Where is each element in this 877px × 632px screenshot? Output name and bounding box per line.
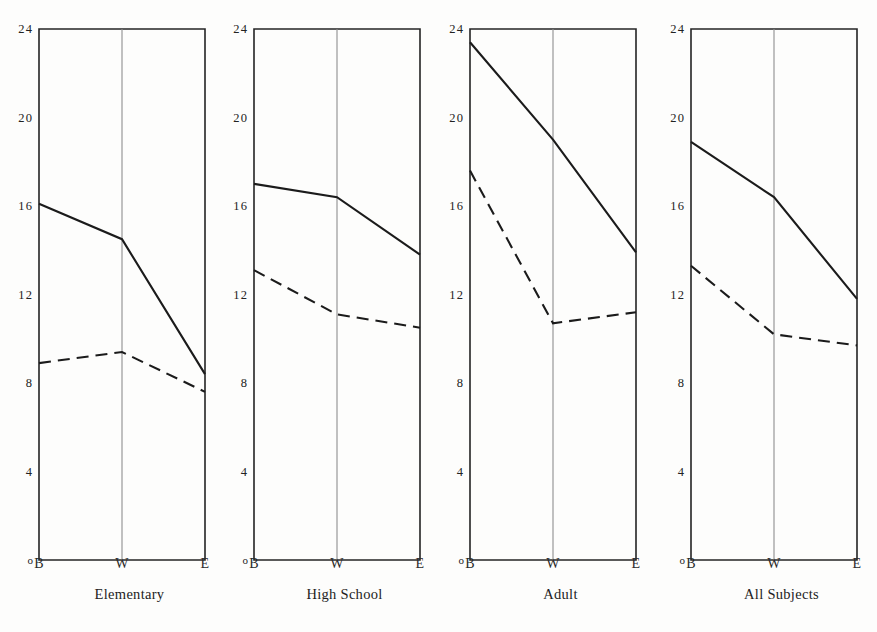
x-tick-label: W (115, 556, 129, 572)
x-axis-ticks: BWE (237, 556, 452, 578)
y-tick-label: 8 (241, 376, 248, 391)
panel-plot: o4812162024 (22, 0, 237, 600)
panel-plot: o4812162024 (453, 0, 668, 600)
y-tick-label: 4 (457, 464, 464, 479)
panel-plot: o4812162024 (674, 0, 877, 600)
y-tick-label: 24 (449, 22, 464, 37)
y-tick-label: 8 (457, 376, 464, 391)
x-axis-ticks: BWE (453, 556, 668, 578)
y-axis-ticks: o4812162024 (22, 0, 237, 600)
x-tick-label: E (853, 556, 862, 572)
y-tick-label: 24 (18, 22, 33, 37)
panel-plot: o4812162024 (237, 0, 452, 600)
y-tick-label: 4 (678, 464, 685, 479)
y-axis-ticks: o4812162024 (453, 0, 668, 600)
y-tick-label: 16 (18, 199, 33, 214)
x-tick-label: E (632, 556, 641, 572)
panel-caption: High School (237, 586, 452, 603)
chart-panel-all-subjects: o4812162024BWEAll Subjects (674, 0, 877, 632)
y-tick-label: 16 (670, 199, 685, 214)
panel-caption: Elementary (22, 586, 237, 603)
y-tick-label: 8 (678, 376, 685, 391)
x-tick-label: W (767, 556, 781, 572)
x-tick-label: W (330, 556, 344, 572)
y-tick-label: 8 (26, 376, 33, 391)
chart-panel-group: o4812162024BWEElementaryo4812162024BWEHi… (0, 0, 877, 632)
y-tick-label: 24 (233, 22, 248, 37)
chart-panel-high-school: o4812162024BWEHigh School (237, 0, 452, 632)
x-tick-label: B (249, 556, 259, 572)
y-axis-ticks: o4812162024 (674, 0, 877, 600)
x-axis-ticks: BWE (22, 556, 237, 578)
x-tick-label: W (546, 556, 560, 572)
y-tick-label: 4 (241, 464, 248, 479)
x-tick-label: B (34, 556, 44, 572)
x-tick-label: E (201, 556, 210, 572)
y-tick-label: 4 (26, 464, 33, 479)
x-tick-label: B (686, 556, 696, 572)
y-tick-label: 24 (670, 22, 685, 37)
y-tick-label: 12 (18, 287, 33, 302)
y-tick-label: 16 (449, 199, 464, 214)
chart-panel-elementary: o4812162024BWEElementary (22, 0, 237, 632)
x-axis-ticks: BWE (674, 556, 877, 578)
y-tick-label: 12 (449, 287, 464, 302)
y-tick-label: 20 (670, 110, 685, 125)
y-tick-label: 20 (449, 110, 464, 125)
y-tick-label: 20 (233, 110, 248, 125)
chart-panel-adult: o4812162024BWEAdult (453, 0, 668, 632)
y-tick-label: 12 (233, 287, 248, 302)
y-tick-label: 16 (233, 199, 248, 214)
panel-caption: All Subjects (674, 586, 877, 603)
y-tick-label: 12 (670, 287, 685, 302)
panel-caption: Adult (453, 586, 668, 603)
x-tick-label: B (465, 556, 475, 572)
x-tick-label: E (416, 556, 425, 572)
y-tick-label: 20 (18, 110, 33, 125)
y-axis-ticks: o4812162024 (237, 0, 452, 600)
